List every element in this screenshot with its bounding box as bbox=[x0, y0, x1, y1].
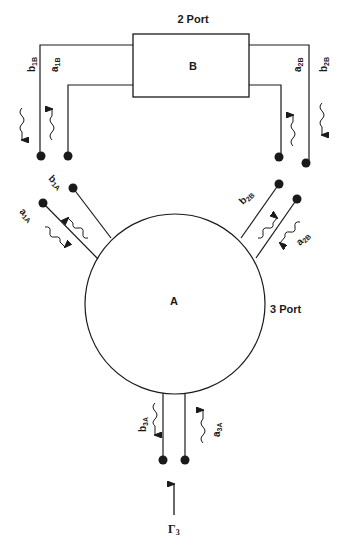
block-b: 2 Port B bbox=[133, 13, 249, 97]
wave-arrow-down-icon bbox=[320, 103, 324, 135]
block-a-port-1: b1A a1A bbox=[17, 173, 111, 259]
wave-arrow-up-icon bbox=[50, 109, 54, 140]
b-port2-inner-lead bbox=[249, 85, 281, 156]
wave-arrow-inward-icon bbox=[45, 227, 65, 247]
a-port1-inner-lead bbox=[73, 188, 111, 238]
label-b2B: b2B bbox=[318, 57, 330, 72]
terminal-dot bbox=[159, 456, 168, 465]
label-a3A: a3A bbox=[211, 422, 223, 437]
wave-arrow-outward-icon bbox=[68, 218, 88, 238]
block-b-port-1: b1B a1B bbox=[20, 45, 133, 161]
block-a-letter: A bbox=[170, 295, 178, 307]
label-a2B: a2B bbox=[292, 57, 304, 72]
label-gamma-3: Γ3 bbox=[168, 522, 180, 537]
wave-arrow-down-icon bbox=[20, 108, 24, 140]
terminal-dot bbox=[39, 199, 48, 208]
wave-arrow-down-icon bbox=[153, 403, 157, 435]
reflection-gamma-3: Γ3 bbox=[168, 484, 180, 537]
two-port-three-port-network-diagram: 2 Port B b1B a1B a2B b2B A 3 Port bbox=[0, 0, 341, 549]
label-b1A: b1A bbox=[46, 173, 65, 192]
label-b3A: b3A bbox=[137, 417, 149, 432]
label-a1B: a1B bbox=[49, 57, 61, 72]
block-b-port-2: a2B b2B bbox=[249, 45, 330, 168]
terminal-dot bbox=[181, 456, 190, 465]
block-a-port-2: b2B a2B bbox=[237, 180, 313, 259]
block-a-port-3: b3A a3A bbox=[137, 393, 223, 465]
terminal-dot bbox=[37, 152, 46, 161]
terminal-dot bbox=[302, 159, 311, 168]
b-port1-inner-lead bbox=[68, 85, 133, 156]
wave-arrow-up-icon bbox=[291, 115, 295, 146]
label-a2A: a2B bbox=[294, 229, 313, 248]
a-port1-outer-lead bbox=[43, 203, 98, 259]
block-a: A 3 Port bbox=[85, 214, 302, 394]
block-b-letter: B bbox=[189, 60, 197, 72]
wave-arrow-outward-icon bbox=[258, 218, 277, 238]
label-a1A: a1A bbox=[17, 206, 36, 225]
terminal-dot bbox=[69, 184, 78, 193]
label-b2A: b2B bbox=[237, 188, 256, 207]
terminal-dot bbox=[293, 195, 302, 204]
block-b-type-label: 2 Port bbox=[177, 13, 209, 25]
terminal-dot bbox=[275, 180, 284, 189]
block-a-type-label: 3 Port bbox=[270, 303, 302, 315]
terminal-dot bbox=[275, 153, 284, 162]
label-b1B: b1B bbox=[26, 57, 38, 72]
terminal-dot bbox=[64, 152, 73, 161]
a-port2-inner-lead bbox=[241, 184, 279, 238]
wave-arrow-up-icon bbox=[201, 410, 205, 443]
